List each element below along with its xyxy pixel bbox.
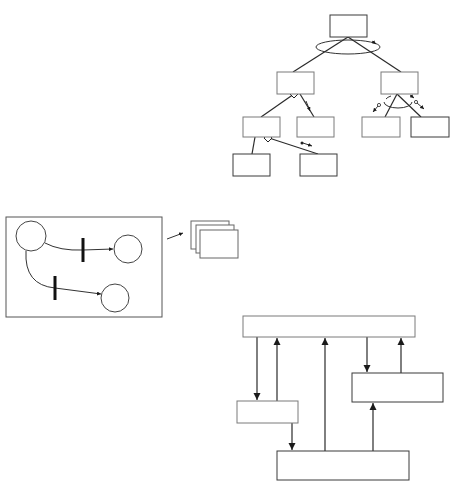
edge-l1left-l2a [261, 94, 294, 117]
small-arrow-icon [306, 101, 310, 111]
tree-node-l3-a [233, 154, 270, 176]
tree-node-l2-c [362, 117, 400, 137]
small-circle-icon [414, 100, 417, 103]
tree-node-l1-left [277, 72, 314, 94]
tree-node-l3-b [300, 154, 337, 176]
block-left [237, 401, 298, 423]
edge-l1left-l2b [300, 94, 314, 117]
tree-node-l2-b [297, 117, 334, 137]
block-top [243, 316, 415, 337]
tree-node-l1-right [381, 72, 418, 94]
small-circle-icon [377, 103, 380, 106]
edge-root-l1left [293, 37, 348, 72]
data-flow-diagram [237, 316, 443, 480]
tree-node-l2-a [243, 117, 280, 137]
small-arrow-icon [410, 95, 414, 98]
diagram-canvas [0, 0, 456, 482]
place-p1 [16, 221, 46, 251]
rotation-ellipse-right-top [386, 96, 391, 99]
small-dot-icon [301, 142, 304, 145]
small-arrow-icon [417, 103, 424, 109]
place-p3 [101, 284, 129, 312]
page-front [200, 230, 238, 258]
tree-node-root [330, 15, 367, 37]
petri-net-diagram [6, 217, 162, 317]
place-p2 [114, 235, 142, 263]
small-arrow-icon [373, 106, 378, 112]
tree-diagram [233, 15, 449, 176]
small-arrow-icon [303, 143, 312, 146]
block-bottom [277, 451, 409, 480]
tree-node-l2-d [411, 117, 449, 137]
rotation-ellipse-root [316, 40, 380, 54]
edge-l2a-l3a [252, 137, 255, 154]
edge-root-l1right [348, 37, 401, 72]
block-right [352, 373, 443, 402]
stacked-pages-icon [191, 221, 238, 258]
arrow-to-pages-icon [167, 233, 183, 239]
